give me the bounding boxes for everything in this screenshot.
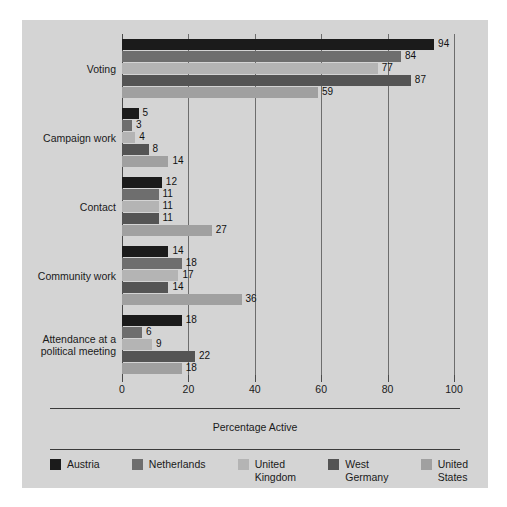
axis-title-rule-bottom bbox=[50, 449, 460, 450]
bar-row: 14 bbox=[122, 282, 454, 293]
bar-row: 59 bbox=[122, 87, 454, 98]
bar-value-label: 11 bbox=[159, 212, 173, 223]
bar-value-label: 5 bbox=[139, 107, 149, 118]
legend-label: West Germany bbox=[345, 458, 388, 483]
bar-row: 22 bbox=[122, 351, 454, 362]
bar bbox=[122, 189, 159, 200]
bar-value-label: 94 bbox=[434, 38, 449, 49]
bar-value-label: 87 bbox=[411, 74, 426, 85]
bar-value-label: 36 bbox=[242, 293, 257, 304]
bar-value-label: 11 bbox=[159, 188, 173, 199]
bar bbox=[122, 294, 242, 305]
legend-item[interactable]: United States bbox=[421, 458, 468, 483]
bar-value-label: 18 bbox=[182, 257, 197, 268]
bar-value-label: 9 bbox=[152, 338, 162, 349]
chart-figure: VotingCampaign workContactCommunity work… bbox=[22, 20, 488, 488]
legend-item[interactable]: Austria bbox=[50, 458, 100, 471]
bar-value-label: 14 bbox=[168, 245, 183, 256]
chart-legend: AustriaNetherlandsUnited KingdomWest Ger… bbox=[50, 458, 468, 500]
legend-item[interactable]: Netherlands bbox=[132, 458, 206, 471]
bar-value-label: 18 bbox=[182, 314, 197, 325]
bar-value-label: 4 bbox=[135, 131, 145, 142]
legend-item[interactable]: West Germany bbox=[328, 458, 388, 483]
bar-value-label: 8 bbox=[149, 143, 159, 154]
bar-row: 94 bbox=[122, 39, 454, 50]
bar-row: 36 bbox=[122, 294, 454, 305]
bar-row: 5 bbox=[122, 108, 454, 119]
legend-label: Austria bbox=[67, 458, 100, 471]
legend-swatch-icon bbox=[238, 459, 249, 470]
bar bbox=[122, 132, 135, 143]
bar-value-label: 6 bbox=[142, 326, 152, 337]
bar bbox=[122, 315, 182, 326]
bar bbox=[122, 39, 434, 50]
bar-value-label: 3 bbox=[132, 119, 142, 130]
bar-row: 18 bbox=[122, 363, 454, 374]
bar bbox=[122, 327, 142, 338]
bar-row: 84 bbox=[122, 51, 454, 62]
bar bbox=[122, 87, 318, 98]
legend-swatch-icon bbox=[328, 459, 339, 470]
bar bbox=[122, 351, 195, 362]
bar-value-label: 18 bbox=[182, 362, 197, 373]
category-label: Community work bbox=[38, 269, 116, 282]
x-tick-mark bbox=[122, 375, 123, 382]
bar-value-label: 17 bbox=[178, 269, 193, 280]
bar-value-label: 84 bbox=[401, 50, 416, 61]
bar-row: 6 bbox=[122, 327, 454, 338]
bar-row: 11 bbox=[122, 189, 454, 200]
legend-label: United States bbox=[438, 458, 468, 483]
bar bbox=[122, 156, 168, 167]
category-label: Contact bbox=[80, 200, 116, 213]
bar bbox=[122, 363, 182, 374]
bar-row: 9 bbox=[122, 339, 454, 350]
axis-title-block: Percentage Active bbox=[50, 408, 460, 450]
bar-row: 14 bbox=[122, 156, 454, 167]
gridline-100 bbox=[454, 34, 455, 379]
plot-area: 9484778759534814121111112714181714361869… bbox=[122, 34, 454, 379]
x-tick-mark bbox=[454, 375, 455, 382]
bar-row: 4 bbox=[122, 132, 454, 143]
category-label: Attendance at apolitical meeting bbox=[41, 332, 116, 357]
bar-value-label: 59 bbox=[318, 86, 333, 97]
x-axis-title: Percentage Active bbox=[50, 421, 460, 433]
legend-swatch-icon bbox=[132, 459, 143, 470]
bar bbox=[122, 120, 132, 131]
bar-row: 3 bbox=[122, 120, 454, 131]
legend-swatch-icon bbox=[50, 459, 61, 470]
legend-swatch-icon bbox=[421, 459, 432, 470]
bar-row: 87 bbox=[122, 75, 454, 86]
bar-value-label: 22 bbox=[195, 350, 210, 361]
x-tick-mark bbox=[321, 375, 322, 382]
x-tick-mark bbox=[388, 375, 389, 382]
bar bbox=[122, 63, 378, 74]
bar-value-label: 11 bbox=[159, 200, 173, 211]
bar-row: 18 bbox=[122, 315, 454, 326]
bar-group: 1418171436 bbox=[122, 246, 454, 305]
x-tick-label: 100 bbox=[445, 383, 463, 395]
bar-value-label: 14 bbox=[168, 155, 183, 166]
bar bbox=[122, 75, 411, 86]
bar-group: 9484778759 bbox=[122, 39, 454, 98]
bar bbox=[122, 213, 159, 224]
x-tick-label: 0 bbox=[119, 383, 125, 395]
x-axis-ticks: 020406080100 bbox=[122, 382, 454, 400]
bar bbox=[122, 51, 401, 62]
bar bbox=[122, 177, 162, 188]
axis-title-rule-top bbox=[50, 408, 460, 409]
bar-row: 8 bbox=[122, 144, 454, 155]
category-axis: VotingCampaign workContactCommunity work… bbox=[22, 34, 122, 379]
bar-row: 11 bbox=[122, 213, 454, 224]
bar bbox=[122, 246, 168, 257]
x-tick-label: 80 bbox=[382, 383, 394, 395]
bar bbox=[122, 144, 149, 155]
bar-row: 17 bbox=[122, 270, 454, 281]
legend-label: United Kingdom bbox=[255, 458, 296, 483]
bar-group: 1211111127 bbox=[122, 177, 454, 236]
bar-row: 77 bbox=[122, 63, 454, 74]
legend-item[interactable]: United Kingdom bbox=[238, 458, 296, 483]
bar bbox=[122, 270, 178, 281]
bar bbox=[122, 108, 139, 119]
bar-value-label: 12 bbox=[162, 176, 177, 187]
bar-group: 534814 bbox=[122, 108, 454, 167]
